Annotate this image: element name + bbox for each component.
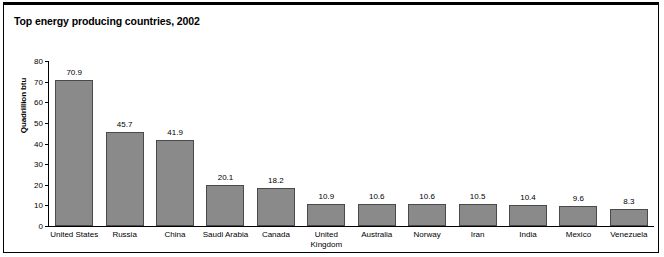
bar-slot: 45.7Russia: [99, 61, 149, 226]
y-axis-tick-label: 60: [34, 98, 43, 107]
bar-value-label: 20.1: [218, 173, 234, 182]
y-axis-tick-label: 70: [34, 77, 43, 86]
bar[interactable]: [156, 140, 194, 226]
y-axis-tick: [45, 226, 49, 227]
x-axis-category-label: China: [148, 230, 202, 240]
bar[interactable]: [459, 204, 497, 226]
bar-value-label: 41.9: [167, 128, 183, 137]
bar-slot: 8.3Venezuela: [604, 61, 654, 226]
x-axis-category-label: Norway: [400, 230, 454, 240]
bar[interactable]: [408, 204, 446, 226]
bar-value-label: 9.6: [573, 194, 584, 203]
x-axis-category-label: Russia: [98, 230, 152, 240]
bar[interactable]: [206, 185, 244, 226]
x-axis-category-label: Iran: [451, 230, 505, 240]
x-axis-category-label: United States: [47, 230, 101, 240]
bar-value-label: 8.3: [623, 197, 634, 206]
y-axis-tick-label: 0: [39, 222, 43, 231]
y-axis-tick-label: 10: [34, 201, 43, 210]
x-axis-category-label: Canada: [249, 230, 303, 240]
bar[interactable]: [307, 204, 345, 226]
bar-slot: 70.9United States: [49, 61, 99, 226]
bar-value-label: 10.4: [520, 193, 536, 202]
x-axis-category-label: United Kingdom: [299, 230, 353, 249]
y-axis-tick-label: 40: [34, 139, 43, 148]
x-axis-category-label: Australia: [350, 230, 404, 240]
y-axis-tick-label: 50: [34, 118, 43, 127]
bar-slot: 41.9China: [150, 61, 200, 226]
bar[interactable]: [55, 80, 93, 226]
bar-value-label: 10.6: [419, 192, 435, 201]
plot-wrapper: Quadrillion btu 80706050403020100 70.9Un…: [4, 5, 660, 256]
bar-slot: 20.1Saudi Arabia: [200, 61, 250, 226]
bar-value-label: 10.9: [319, 192, 335, 201]
bar-slot: 10.9United Kingdom: [301, 61, 351, 226]
y-axis-tick-label: 30: [34, 160, 43, 169]
bar-series: 70.9United States45.7Russia41.9China20.1…: [49, 61, 654, 226]
x-axis-category-label: Venezuela: [602, 230, 656, 240]
x-axis-category-label: India: [501, 230, 555, 240]
bar-slot: 10.6Australia: [352, 61, 402, 226]
y-axis-title: Quadrillion btu: [19, 51, 28, 161]
bar[interactable]: [358, 204, 396, 226]
bar-slot: 10.6Norway: [402, 61, 452, 226]
bar-slot: 18.2Canada: [251, 61, 301, 226]
x-axis-category-label: Mexico: [551, 230, 605, 240]
bar[interactable]: [257, 188, 295, 226]
bar-value-label: 10.5: [470, 192, 486, 201]
bar[interactable]: [610, 209, 648, 226]
y-axis-tick-label: 80: [34, 57, 43, 66]
bar-value-label: 18.2: [268, 176, 284, 185]
bar-slot: 10.4India: [503, 61, 553, 226]
x-axis-category-label: Saudi Arabia: [198, 230, 252, 240]
bar-value-label: 70.9: [66, 68, 82, 77]
y-axis-tick-label: 20: [34, 180, 43, 189]
bar-slot: 10.5Iran: [452, 61, 502, 226]
bar-slot: 9.6Mexico: [553, 61, 603, 226]
bar[interactable]: [509, 205, 547, 226]
bar-value-label: 45.7: [117, 120, 133, 129]
bar[interactable]: [559, 206, 597, 226]
bar-value-label: 10.6: [369, 192, 385, 201]
chart-frame: Top energy producing countries, 2002 Qua…: [3, 2, 659, 253]
bar[interactable]: [106, 132, 144, 226]
plot-area: 80706050403020100 70.9United States45.7R…: [48, 61, 654, 227]
